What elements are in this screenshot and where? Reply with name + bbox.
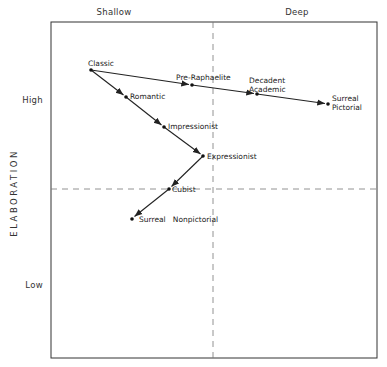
label-academic: Academic (249, 85, 286, 94)
label-impressionist: Impressionist (168, 122, 218, 131)
label-decadent: Decadent (249, 76, 285, 85)
label-surreal-nonpictorial: Surreal Nonpictorial (139, 215, 218, 224)
node-impressionist (162, 125, 166, 129)
edge-classic-prerap (91, 70, 189, 85)
label-expressionist: Expressionist (207, 152, 257, 161)
edge-expressionist-cubist (172, 156, 204, 187)
label-classic: Classic (88, 59, 114, 68)
edge-romantic-impressionist (126, 97, 162, 125)
edge-prerap-decadent (192, 85, 254, 94)
edge-decadent-surreal (257, 94, 325, 104)
label-romantic: Romantic (130, 92, 165, 101)
label-cubist: Cubist (172, 185, 196, 194)
node-surreal-nonpictorial (130, 217, 134, 221)
node-romantic (124, 95, 128, 99)
node-cubist (167, 187, 171, 191)
node-surreal-pictorial (326, 102, 330, 106)
nodes (89, 68, 330, 221)
edges (91, 70, 325, 217)
elaboration-depth-diagram: Shallow Deep High Low ELABORATION Classi… (0, 0, 387, 367)
y-axis-title: ELABORATION (9, 149, 19, 236)
node-expressionist (201, 154, 205, 158)
edge-cubist-surreal-nonpictorial (135, 189, 170, 217)
label-surreal: Surreal (332, 94, 359, 103)
edge-impressionist-expressionist (164, 127, 201, 154)
y-label-high: High (22, 95, 43, 105)
x-label-deep: Deep (285, 7, 309, 17)
label-pre-raphaelite: Pre-Raphaelite (176, 73, 231, 82)
label-pictorial: Pictorial (332, 103, 362, 112)
node-classic (89, 68, 93, 72)
y-label-low: Low (25, 280, 43, 290)
x-label-shallow: Shallow (97, 7, 132, 17)
node-pre-raphaelite (190, 83, 194, 87)
